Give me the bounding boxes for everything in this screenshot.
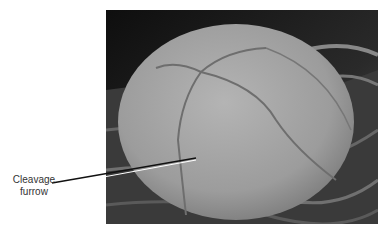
micrograph-photo — [106, 10, 378, 224]
label-line-2: furrow — [4, 186, 64, 198]
label-line-1: Cleavage — [4, 174, 64, 186]
embryo-illustration — [106, 10, 378, 224]
cleavage-furrow-label: Cleavage furrow — [4, 174, 64, 198]
